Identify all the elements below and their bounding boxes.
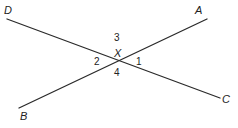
point-label-b: B xyxy=(20,110,27,122)
point-label-c: C xyxy=(222,93,230,105)
angle-label-1: 1 xyxy=(136,56,142,67)
angle-label-2: 2 xyxy=(94,56,100,67)
point-label-d: D xyxy=(4,4,12,16)
point-label-a: A xyxy=(194,4,202,16)
angle-label-4: 4 xyxy=(114,67,120,78)
line-ba xyxy=(19,19,207,108)
angle-label-3: 3 xyxy=(114,32,120,43)
point-label-x: X xyxy=(113,47,122,59)
diagram-canvas: D A B C X 3 2 1 4 xyxy=(0,0,238,128)
